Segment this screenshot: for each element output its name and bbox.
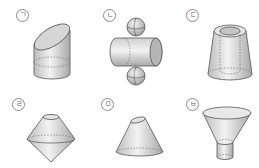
figure-hollow-frustum	[208, 25, 252, 80]
label-giyeok: ㄱ	[16, 9, 29, 22]
figure-oblique-cylinder	[30, 19, 73, 79]
label-bieup: ㅂ	[186, 98, 199, 111]
label-mieum: ㅁ	[101, 98, 114, 111]
figure-oblique-cone	[116, 116, 163, 156]
label-nieun: ㄴ	[103, 9, 116, 22]
figures-canvas	[0, 0, 259, 168]
figure-cylinder-spheres	[110, 18, 162, 85]
label-digeut: ㄷ	[186, 9, 199, 22]
figure-frustum-cone	[27, 115, 75, 163]
figure-funnel	[203, 107, 251, 160]
label-rieul: ㄹ	[12, 98, 25, 111]
